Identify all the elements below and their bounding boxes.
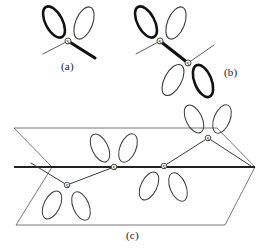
panel-c-bond-s3-s4 <box>164 138 208 166</box>
panel-a-atom-label: S <box>66 38 70 45</box>
panel-c-bond-s4-right-edge <box>208 138 251 166</box>
panel-c-s4-lobe-up-right <box>209 102 235 136</box>
panel-b-lobe-up-left <box>131 3 162 41</box>
figure-drawing-canvas: S S S <box>0 0 266 252</box>
panel-a-lobe-up-right <box>70 4 98 42</box>
panel-b-lobe-down-left <box>158 61 189 99</box>
panel-b-upper-atom-label: S <box>158 38 162 45</box>
panel-b-caption: (b) <box>224 66 237 78</box>
panel-c-caption: (c) <box>126 229 139 241</box>
panel-c-s1-lobe-down-left <box>38 188 66 222</box>
panel-b-group: S S <box>131 3 218 100</box>
panel-a-bond-down-right <box>68 41 95 58</box>
panel-c-s3-atom-label: S <box>162 164 165 170</box>
panel-b-caption-text: (b) <box>224 66 237 78</box>
panel-c-group: S S S S <box>14 102 255 225</box>
panel-b-bond-s-s <box>160 41 188 63</box>
panel-c-s1-lobe-down-right <box>68 189 94 223</box>
panel-a-caption-text: (a) <box>61 60 74 72</box>
orbital-overlap-figure: S S S <box>0 0 266 252</box>
panel-c-s3-lobe-down-right <box>165 170 191 204</box>
panel-a-lobe-up-left <box>39 3 70 41</box>
panel-c-s1-atom-label: S <box>65 183 68 189</box>
panel-b-bond-upper-down-left <box>136 41 160 54</box>
panel-c-plane-parallelogram <box>14 128 255 167</box>
panel-b-lower-atom-label: S <box>186 60 190 67</box>
panel-c-s3-lobe-down-left <box>135 169 163 203</box>
panel-c-s2-lobe-up-right <box>115 131 141 165</box>
panel-c-s4-atom-label: S <box>206 136 209 142</box>
panel-c-bond-s1-s2 <box>67 167 114 185</box>
panel-b-lobe-down-right <box>189 62 217 100</box>
panel-a-caption: (a) <box>61 60 74 72</box>
panel-c-caption-text: (c) <box>126 229 139 241</box>
panel-a-group: S <box>39 3 99 58</box>
panel-b-bond-lower-up-right <box>188 45 214 63</box>
panel-c-s2-atom-label: S <box>112 165 115 171</box>
panel-b-lobe-up-right <box>162 4 190 42</box>
panel-c-s2-lobe-up-left <box>86 131 114 165</box>
panel-c-s4-lobe-up-left <box>180 102 208 136</box>
panel-a-bond-down-left <box>43 41 68 54</box>
